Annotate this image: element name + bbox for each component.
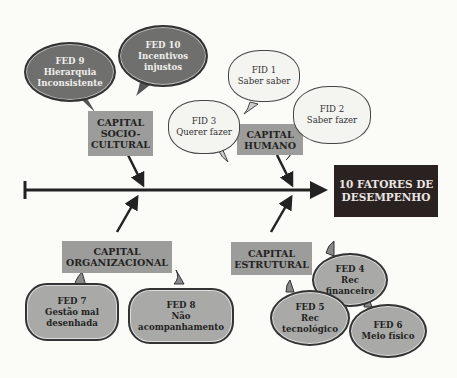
bone-humano xyxy=(277,155,291,183)
factor-text: Não xyxy=(171,311,190,322)
factor-fed8: FED 8 Não acompanhamento xyxy=(128,288,234,344)
factor-text: tecnológico xyxy=(282,324,338,335)
bone-sociocultural xyxy=(128,155,142,183)
factor-text: Rec xyxy=(301,313,319,324)
tail-fid1 xyxy=(244,102,258,114)
factor-text: Incentivos xyxy=(138,51,188,62)
factor-text: Meio físico xyxy=(362,331,415,342)
factor-text: Gestão mal xyxy=(45,307,99,318)
factor-id: FID 2 xyxy=(320,104,344,115)
category-label: CULTURAL xyxy=(91,139,150,150)
factor-id: FED 8 xyxy=(166,300,195,311)
tail-fed5 xyxy=(286,280,294,292)
bone-estrutural xyxy=(271,199,290,232)
factor-text: Inconsistente xyxy=(37,78,103,89)
factor-text: desenhada xyxy=(46,318,97,329)
factor-fed6: FED 6 Meio físico xyxy=(349,304,427,358)
factor-id: FID 1 xyxy=(252,65,276,76)
factor-fed7: FED 7 Gestão mal desenhada xyxy=(25,283,119,341)
factor-fid1: FID 1 Saber saber xyxy=(228,50,300,102)
effect-box: 10 FATORES DE DESEMPENHO xyxy=(334,165,438,217)
category-label: CAPITAL xyxy=(246,129,293,140)
factor-id: FED 4 xyxy=(335,264,364,275)
factor-id: FED 5 xyxy=(295,302,324,313)
category-humano: CAPITAL HUMANO xyxy=(237,124,303,155)
category-label: HUMANO xyxy=(244,140,296,151)
factor-text: Rec xyxy=(341,275,359,286)
factor-id: FID 3 xyxy=(192,116,216,127)
factor-text: Hierarquia xyxy=(44,67,97,78)
factor-fid3: FID 3 Querer fazer xyxy=(168,100,240,154)
category-label: ORGANIZACIONAL xyxy=(66,257,168,268)
tail-fed8 xyxy=(174,270,184,284)
factor-id: FED 9 xyxy=(55,56,84,67)
category-estrutural: CAPITAL ESTRUTURAL xyxy=(231,242,312,275)
category-organizacional: CAPITAL ORGANIZACIONAL xyxy=(62,241,172,273)
category-label: CAPITAL xyxy=(93,246,140,257)
bone-organizacional xyxy=(117,199,136,232)
category-label: SOCIO- xyxy=(101,128,141,139)
factor-fed10: FED 10 Incentivos injustos xyxy=(118,25,208,87)
factor-id: FED 10 xyxy=(145,40,180,51)
effect-line2: DESEMPENHO xyxy=(342,191,431,204)
category-label: CAPITAL xyxy=(248,248,295,259)
tail-fed4 xyxy=(326,241,334,256)
factor-fid2: FID 2 Saber fazer xyxy=(293,86,371,144)
effect-line1: 10 FATORES DE xyxy=(339,178,434,191)
factor-text: Saber saber xyxy=(238,76,291,87)
factor-text: Querer fazer xyxy=(176,127,232,138)
factor-fed5: FED 5 Rec tecnológico xyxy=(270,290,350,346)
factor-text: acompanhamento xyxy=(138,322,224,333)
factor-id: FED 7 xyxy=(57,296,86,307)
factor-fed9: FED 9 Hierarquia Inconsistente xyxy=(24,42,116,102)
category-label: ESTRUTURAL xyxy=(234,259,309,270)
category-label: CAPITAL xyxy=(97,117,144,128)
factor-text: Saber fazer xyxy=(307,115,357,126)
factor-text: injustos xyxy=(144,62,182,73)
category-sociocultural: CAPITAL SOCIO- CULTURAL xyxy=(88,111,153,156)
factor-id: FED 6 xyxy=(373,320,402,331)
